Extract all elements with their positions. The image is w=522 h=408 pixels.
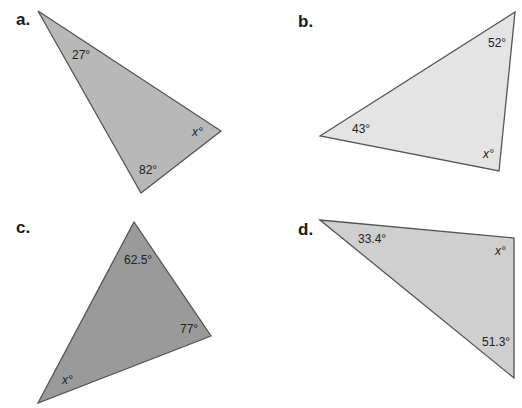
angle-label-c-bottom: x° [62,373,73,387]
angle-label-a-right: x° [192,125,203,139]
angle-label-a-top: 27° [72,48,90,62]
triangle-d [320,220,514,378]
problem-label-a: a. [16,10,30,30]
angle-label-d-left: 33.4° [358,232,386,246]
angle-label-b-left: 43° [352,122,370,136]
angle-label-c-top: 62.5° [124,253,152,267]
angle-label-b-bottom: x° [483,147,494,161]
problem-label-b: b. [298,12,313,32]
angle-label-a-bottom: 82° [139,163,157,177]
angle-label-d-bottom-right: 51.3° [482,335,510,349]
angle-label-d-top-right: x° [495,244,506,258]
triangle-a [38,11,221,193]
angle-label-c-right: 77° [180,322,198,336]
problem-label-d: d. [298,220,313,240]
problem-label-c: c. [16,218,30,238]
angle-label-b-top: 52° [488,36,506,50]
